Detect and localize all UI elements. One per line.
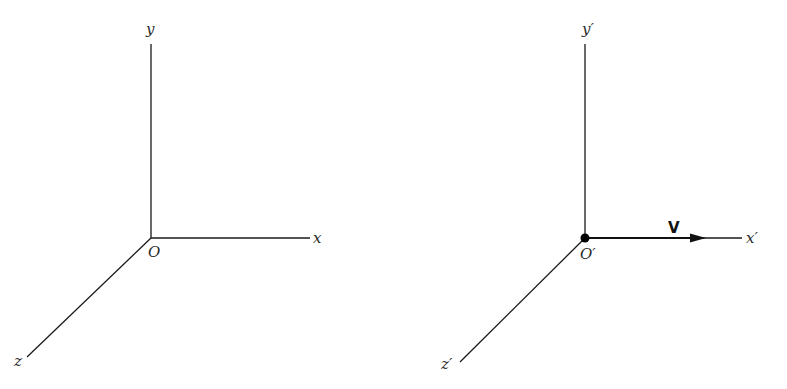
origin-label: O xyxy=(148,243,160,261)
y-axis-label: y xyxy=(145,20,155,38)
z-prime-axis xyxy=(460,238,585,362)
coordinate-frames-diagram: y x O z y′ x′ O′ z′ V xyxy=(0,0,787,389)
origin-dot-icon xyxy=(581,234,590,243)
z-axis-label: z xyxy=(13,352,22,370)
origin-prime-label: O′ xyxy=(580,245,596,263)
velocity-arrowhead-icon xyxy=(690,234,706,243)
velocity-label: V xyxy=(668,219,680,237)
x-prime-axis-label: x′ xyxy=(746,229,758,247)
z-axis xyxy=(27,238,151,357)
moving-frame: y′ x′ O′ z′ V xyxy=(440,20,758,373)
z-prime-axis-label: z′ xyxy=(440,355,453,373)
x-axis-label: x xyxy=(313,229,322,247)
stationary-frame: y x O z xyxy=(13,20,322,370)
y-prime-axis-label: y′ xyxy=(581,20,594,38)
